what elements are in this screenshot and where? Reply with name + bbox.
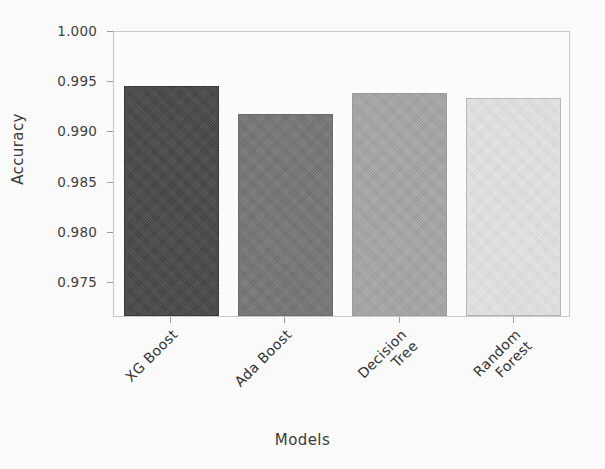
x-axis-tick-label: DecisionTree: [355, 327, 421, 393]
x-axis-tick-mark: [513, 317, 514, 323]
bar-ada-boost: [238, 114, 333, 316]
x-axis-tick-label-line1: Ada Boost: [232, 326, 295, 389]
x-axis-tick-mark: [284, 317, 285, 323]
bar-texture: [353, 94, 446, 315]
bar-random-forest: [466, 98, 561, 316]
bar-xg-boost: [124, 86, 219, 316]
bar-chart-figure: Accuracy 1.0000.9950.9900.9850.9800.975 …: [0, 0, 605, 469]
y-axis-tick-label: 0.980: [57, 224, 97, 240]
x-axis-tick-mark: [399, 317, 400, 323]
plot-area: [113, 31, 570, 317]
y-axis-tick-labels: 1.0000.9950.9900.9850.9800.975: [0, 0, 105, 469]
x-axis-tick-label-line1: XG Boost: [122, 326, 181, 385]
bar-texture: [467, 99, 560, 315]
bar-texture: [239, 115, 332, 315]
y-axis-tick-label: 0.990: [57, 123, 97, 139]
x-axis-tick-label: Ada Boost: [232, 327, 295, 390]
bar-decision-tree: [352, 93, 447, 316]
y-axis-tick-label: 0.985: [57, 174, 97, 190]
y-axis-tick-label: 0.995: [57, 73, 97, 89]
y-axis-tick-label: 1.000: [57, 23, 97, 39]
x-axis-tick-label: XG Boost: [123, 327, 181, 385]
x-axis-tick-label: RandomForest: [471, 327, 535, 391]
x-axis-tick-mark: [170, 317, 171, 323]
x-axis-title: Models: [0, 431, 605, 449]
y-axis-tick-label: 0.975: [57, 274, 97, 290]
bar-texture: [125, 87, 218, 315]
